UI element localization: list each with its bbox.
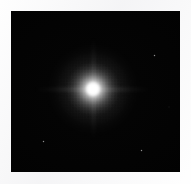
faint-source-lower-left [42, 140, 45, 143]
sky-field-frame [11, 11, 180, 172]
astronomical-image-page [0, 0, 191, 184]
point-source-core [85, 81, 101, 97]
faint-source-right-edge [168, 106, 170, 108]
faint-source-upper-right [153, 54, 156, 57]
faint-source-lower-right [140, 149, 143, 152]
